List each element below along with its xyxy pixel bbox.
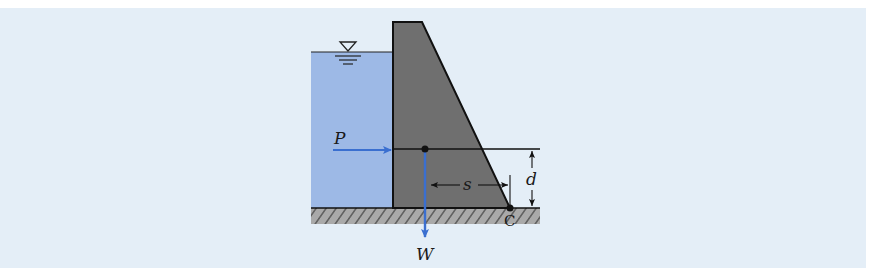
pivot-point-c [507,205,514,212]
label-s: s [463,174,472,194]
label-w: W [416,244,435,264]
label-p: P [333,128,346,148]
label-c: C [504,212,515,230]
water-region [311,52,393,208]
dam-diagram: P W s d C [0,0,874,275]
center-of-gravity-dot [422,146,429,153]
label-d: d [526,169,537,189]
dam-body [393,22,510,208]
